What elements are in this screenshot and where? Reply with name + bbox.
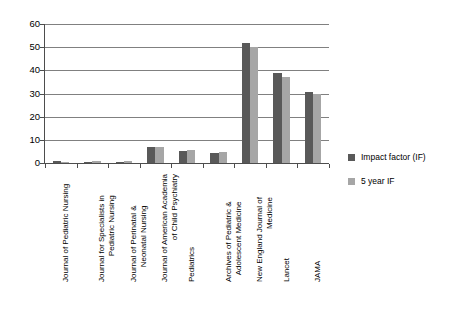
- x-axis-label: JAMA: [313, 261, 323, 282]
- x-tick-mark: [266, 164, 267, 168]
- legend-label: 5 year IF: [361, 176, 395, 186]
- plot-area: [45, 24, 329, 163]
- chart-legend: Impact factor (IF)5 year IF: [348, 152, 448, 200]
- y-tick-label: 10: [14, 135, 40, 145]
- x-axis-line: [44, 163, 329, 164]
- bar-5-year-if: [219, 152, 227, 163]
- bar-group: [179, 24, 195, 163]
- x-axis-label-line: Medicine: [265, 197, 275, 282]
- legend-swatch: [348, 154, 355, 161]
- bar-group: [273, 24, 289, 163]
- x-axis-label-line: JAMA: [313, 261, 323, 282]
- bar-chart: 6050403020100 Journal of Pediatric Nursi…: [0, 0, 452, 333]
- bar-group: [305, 24, 321, 163]
- bar-5-year-if: [155, 147, 163, 163]
- legend-item: Impact factor (IF): [348, 152, 448, 162]
- y-tick-label: 20: [14, 112, 40, 122]
- y-tick-label: 60: [14, 19, 40, 29]
- x-axis-labels: Journal of Pediatric NursingJournal for …: [45, 169, 329, 287]
- x-axis-label-line: of Child Psychiatry: [170, 174, 180, 282]
- y-tick-label: 30: [14, 89, 40, 99]
- x-axis-label-line: Journal of American Academia: [160, 174, 170, 282]
- bar-group: [242, 24, 258, 163]
- x-tick-mark: [77, 164, 78, 168]
- bar-impact-factor: [179, 151, 187, 163]
- bar-group: [53, 24, 69, 163]
- bar-impact-factor: [305, 92, 313, 163]
- x-axis-label: Journal of Pediatric Nursing: [61, 184, 71, 282]
- y-tick-label: 50: [14, 42, 40, 52]
- bar-impact-factor: [273, 73, 281, 163]
- x-axis-label: New England Journal ofMedicine: [255, 197, 274, 282]
- x-tick-mark: [203, 164, 204, 168]
- x-axis-label-line: Lancet: [282, 258, 292, 282]
- x-axis-label-line: New England Journal of: [255, 197, 265, 282]
- bar-group: [116, 24, 132, 163]
- bar-group: [147, 24, 163, 163]
- bar-5-year-if: [313, 94, 321, 163]
- bar-5-year-if: [187, 150, 195, 163]
- x-tick-mark: [234, 164, 235, 168]
- x-axis-label-line: Adolescent Medicine: [233, 202, 243, 282]
- x-axis-label-line: Pediatric Nursing: [107, 195, 117, 282]
- x-tick-mark: [171, 164, 172, 168]
- x-tick-mark: [45, 164, 46, 168]
- x-tick-mark: [297, 164, 298, 168]
- x-axis-label-line: Archives of Pediatric &: [224, 202, 234, 282]
- bar-group: [84, 24, 100, 163]
- x-axis-label-line: Journal for Specialists in: [97, 195, 107, 282]
- x-tick-mark: [140, 164, 141, 168]
- x-axis-label-line: Neonatal Nursing: [138, 206, 148, 283]
- legend-swatch: [348, 178, 355, 185]
- x-axis-label-line: Journal of Perinatal &: [129, 206, 139, 283]
- y-tick-label: 40: [14, 65, 40, 75]
- x-axis-label: Journal of Perinatal &Neonatal Nursing: [129, 206, 148, 283]
- x-axis-label-line: Journal of Pediatric Nursing: [61, 184, 71, 282]
- x-tick-mark: [329, 164, 330, 168]
- bar-5-year-if: [282, 77, 290, 163]
- x-tick-mark: [108, 164, 109, 168]
- bar-impact-factor: [242, 43, 250, 163]
- x-axis-label: Journal for Specialists inPediatric Nurs…: [97, 195, 116, 282]
- x-axis-label: Archives of Pediatric &Adolescent Medici…: [224, 202, 243, 282]
- bar-5-year-if: [250, 47, 258, 163]
- y-axis-labels: 6050403020100: [14, 17, 40, 163]
- y-tick-label: 0: [14, 158, 40, 168]
- legend-label: Impact factor (IF): [361, 152, 426, 162]
- x-axis-label: Lancet: [282, 258, 292, 282]
- bar-impact-factor: [147, 147, 155, 163]
- bar-group: [210, 24, 226, 163]
- bar-impact-factor: [210, 153, 218, 163]
- x-axis-label-line: Pediatrics: [187, 247, 197, 282]
- x-axis-label: Pediatrics: [187, 247, 197, 282]
- legend-item: 5 year IF: [348, 176, 448, 186]
- x-axis-label: Journal of American Academiaof Child Psy…: [160, 174, 179, 282]
